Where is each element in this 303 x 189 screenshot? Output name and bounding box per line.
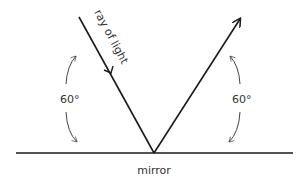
mirror-label: mirror xyxy=(137,164,171,177)
right-angle-arc-down-icon xyxy=(229,112,240,142)
ray-label: ray of light xyxy=(91,7,131,66)
angle-reflection-label: 60° xyxy=(232,93,252,106)
reflection-diagram: ray of light 60° 60° mirror xyxy=(0,0,303,189)
left-angle-arc-up-icon xyxy=(66,56,76,84)
right-angle-arc-up-icon xyxy=(230,56,240,84)
reflected-ray xyxy=(154,19,240,153)
diagram-canvas: ray of light 60° 60° mirror xyxy=(0,0,303,189)
left-angle-arc-down-icon xyxy=(66,112,77,142)
angle-incidence-label: 60° xyxy=(60,93,80,106)
